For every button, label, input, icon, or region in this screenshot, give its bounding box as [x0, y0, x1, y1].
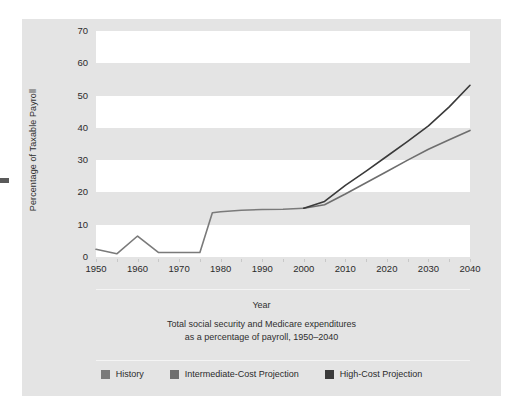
legend-label: History — [116, 369, 144, 379]
divider-bottom — [96, 360, 470, 361]
caption-line-2: as a percentage of payroll, 1950–2040 — [22, 331, 501, 344]
x-tickmark-2010 — [345, 259, 346, 262]
y-tick-labels: 010203040506070 — [96, 31, 470, 257]
y-axis-title: Percentage of Taxable Payroll — [28, 70, 38, 230]
x-tickmark-1990 — [262, 259, 263, 262]
divider-top — [96, 289, 470, 290]
y-tick-10: 10 — [62, 220, 88, 230]
x-tickmark-2020 — [387, 259, 388, 262]
legend-swatch-icon — [170, 370, 179, 379]
x-tick-2030: 2030 — [408, 263, 448, 274]
y-tick-30: 30 — [62, 155, 88, 165]
x-tick-2010: 2010 — [325, 263, 365, 274]
legend-item-high-cost-projection[interactable]: High-Cost Projection — [325, 369, 423, 379]
x-axis-label: Year — [22, 300, 501, 310]
y-tick-50: 50 — [62, 91, 88, 101]
x-tickmark-2035 — [449, 259, 450, 262]
x-tickmark-2040 — [470, 259, 471, 262]
x-tick-2020: 2020 — [367, 263, 407, 274]
x-tickmark-1985 — [241, 259, 242, 262]
legend-label: Intermediate-Cost Projection — [185, 369, 299, 379]
chart-figure: Percentage of Taxable Payroll 0102030405… — [0, 0, 521, 410]
x-tickmark-1955 — [117, 259, 118, 262]
legend-item-intermediate-cost-projection[interactable]: Intermediate-Cost Projection — [170, 369, 299, 379]
x-tick-2000: 2000 — [284, 263, 324, 274]
x-tickmark-1965 — [158, 259, 159, 262]
x-tickmark-1960 — [138, 259, 139, 262]
chart-legend: HistoryIntermediate-Cost ProjectionHigh-… — [22, 369, 501, 379]
scan-artifact — [0, 178, 9, 183]
x-tickmark-1975 — [200, 259, 201, 262]
x-tick-1990: 1990 — [242, 263, 282, 274]
x-tick-1970: 1970 — [159, 263, 199, 274]
x-tick-1960: 1960 — [118, 263, 158, 274]
x-tickmark-1980 — [221, 259, 222, 262]
legend-item-history[interactable]: History — [101, 369, 144, 379]
caption-line-1: Total social security and Medicare expen… — [22, 318, 501, 331]
x-tick-labels: 1950196019701980199020002010202020302040 — [96, 263, 470, 279]
x-tick-2040: 2040 — [450, 263, 490, 274]
x-tickmark-2005 — [325, 259, 326, 262]
y-tick-0: 0 — [62, 252, 88, 262]
y-tick-20: 20 — [62, 187, 88, 197]
y-tick-70: 70 — [62, 26, 88, 36]
chart-caption: Total social security and Medicare expen… — [22, 318, 501, 344]
x-tickmark-1995 — [283, 259, 284, 262]
x-tickmark-1950 — [96, 259, 97, 262]
legend-swatch-icon — [101, 370, 110, 379]
x-tickmark-1970 — [179, 259, 180, 262]
x-tickmark-2015 — [366, 259, 367, 262]
x-tickmark-2000 — [304, 259, 305, 262]
y-tick-60: 60 — [62, 58, 88, 68]
legend-swatch-icon — [325, 370, 334, 379]
x-tickmark-2030 — [428, 259, 429, 262]
x-tick-1980: 1980 — [201, 263, 241, 274]
legend-label: High-Cost Projection — [340, 369, 423, 379]
x-tick-1950: 1950 — [76, 263, 116, 274]
x-tickmark-2025 — [408, 259, 409, 262]
y-tick-40: 40 — [62, 123, 88, 133]
